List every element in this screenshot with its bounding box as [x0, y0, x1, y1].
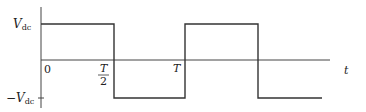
square-wave-diagram: Vdc −Vdc 0 T 2 T t — [0, 0, 366, 112]
vdc-label: Vdc — [13, 17, 32, 32]
half-period-denominator: 2 — [100, 75, 107, 88]
origin-label: 0 — [44, 63, 51, 76]
square-waveform — [41, 24, 322, 98]
neg-vdc-label: −Vdc — [6, 91, 35, 106]
time-axis-label: t — [344, 64, 349, 77]
half-period-numerator: T — [100, 62, 109, 75]
period-label: T — [173, 62, 182, 75]
